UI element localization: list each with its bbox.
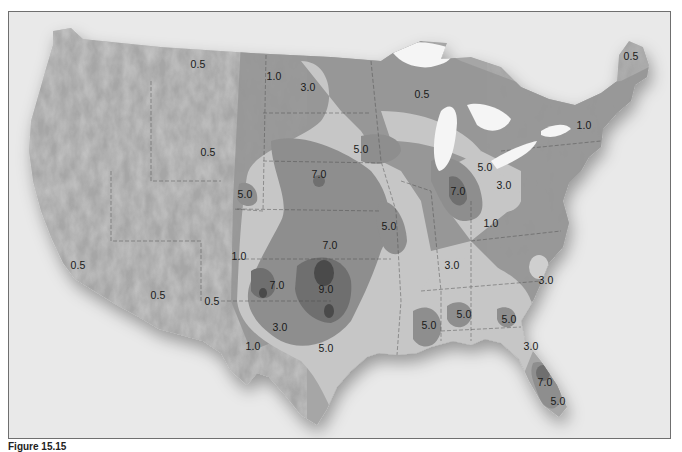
- contour-label-northern-rockies: 0.5: [190, 59, 205, 70]
- contour-label-south-florida: 5.0: [550, 396, 565, 407]
- contour-label-iowa-north: 5.0: [353, 144, 368, 155]
- contour-label-nebraska-east: 7.0: [311, 169, 326, 180]
- contour-label-indiana: 7.0: [450, 186, 465, 197]
- contour-label-maine: 0.5: [623, 51, 638, 62]
- contour-label-tennessee: 3.0: [444, 260, 459, 271]
- contour-label-oklahoma: 9.0: [318, 284, 333, 295]
- us-contour-map: [9, 12, 671, 439]
- contour-label-texas-big-bend: 1.0: [245, 341, 260, 352]
- contour-label-ohio-northwest: 5.0: [477, 162, 492, 173]
- contour-label-new-mexico-north: 1.0: [231, 251, 246, 262]
- contour-label-texas-west: 3.0: [272, 322, 287, 333]
- contour-label-north-dakota: 1.0: [266, 71, 281, 82]
- figure-caption: Figure 15.15: [8, 442, 66, 452]
- contour-label-north-dakota-east: 3.0: [300, 82, 315, 93]
- contour-label-georgia: 5.0: [501, 314, 516, 325]
- contour-label-mississippi: 5.0: [421, 320, 436, 331]
- contour-label-new-mexico-west: 0.5: [204, 296, 219, 307]
- contour-label-missouri: 5.0: [381, 221, 396, 232]
- contour-label-alabama: 5.0: [456, 309, 471, 320]
- contour-label-north-florida: 3.0: [523, 341, 538, 352]
- contour-label-central-florida: 7.0: [537, 377, 552, 388]
- contour-label-southern-california: 0.5: [70, 260, 85, 271]
- contour-label-arizona: 0.5: [150, 290, 165, 301]
- map-frame: 0.51.03.00.50.51.00.55.07.05.07.03.05.01…: [8, 11, 671, 439]
- contour-label-texas-central: 5.0: [318, 343, 333, 354]
- contour-label-north-carolina: 3.0: [538, 275, 553, 286]
- contour-label-wyoming: 0.5: [200, 147, 215, 158]
- contour-label-kentucky-east: 1.0: [483, 218, 498, 229]
- contour-label-oklahoma-panhandle: 7.0: [269, 280, 284, 291]
- contour-label-ohio: 3.0: [496, 180, 511, 191]
- contour-label-colorado-east: 5.0: [237, 189, 252, 200]
- contour-label-wisconsin-north: 0.5: [414, 89, 429, 100]
- contour-label-new-york: 1.0: [576, 120, 591, 131]
- contour-label-kansas-south: 7.0: [322, 240, 337, 251]
